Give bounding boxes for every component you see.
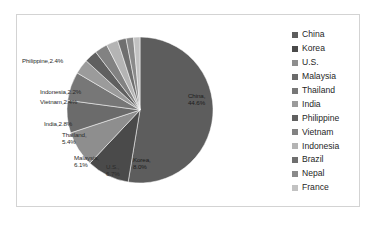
pie-data-label-value: 44.6%	[188, 99, 205, 106]
pie-data-label-name: India,2.8%	[44, 120, 72, 127]
legend-swatch-icon	[292, 115, 298, 121]
legend-item-nepal[interactable]: Nepal	[292, 167, 364, 181]
legend-item-indonesia[interactable]: Indonesia	[292, 139, 364, 153]
pie-data-label: U.S.,6.7%	[106, 163, 120, 178]
legend-swatch-icon	[292, 46, 298, 52]
pie-data-label-value: 8.0%	[133, 163, 151, 170]
pie-data-label-name: Philippine,2.4%	[22, 57, 63, 64]
legend-item-label: China	[302, 30, 324, 39]
legend-swatch-icon	[292, 143, 298, 149]
chart-legend: ChinaKoreaU.S.MalaysiaThailandIndiaPhili…	[292, 28, 364, 195]
pie-data-label: Thailand,5.4%	[62, 131, 87, 146]
legend-item-label: Indonesia	[302, 142, 339, 151]
pie-data-label: Indonesia,2.2%	[40, 88, 81, 95]
legend-item-china[interactable]: China	[292, 28, 364, 42]
legend-item-brazil[interactable]: Brazil	[292, 153, 364, 167]
pie-data-label: Vietnam,2.4%	[40, 98, 77, 105]
legend-item-vietnam[interactable]: Vietnam	[292, 125, 364, 139]
legend-item-thailand[interactable]: Thailand	[292, 84, 364, 98]
legend-item-korea[interactable]: Korea	[292, 42, 364, 56]
legend-item-label: Korea	[302, 44, 325, 53]
legend-item-us[interactable]: U.S.	[292, 56, 364, 70]
pie-data-label-value: 5.4%	[62, 138, 87, 145]
legend-item-malaysia[interactable]: Malaysia	[292, 70, 364, 84]
legend-item-label: U.S.	[302, 58, 319, 67]
legend-swatch-icon	[292, 60, 298, 66]
pie-data-label-name: Korea,	[133, 156, 151, 163]
pie-data-label: Malaysia,6.1%	[74, 154, 99, 169]
legend-item-label: Thailand	[302, 86, 335, 95]
legend-item-label: Philippine	[302, 114, 339, 123]
legend-item-label: India	[302, 100, 321, 109]
legend-swatch-icon	[292, 171, 298, 177]
legend-item-philippine[interactable]: Philippine	[292, 111, 364, 125]
legend-item-label: Vietnam	[302, 128, 333, 137]
legend-item-france[interactable]: France	[292, 181, 364, 195]
pie-data-label-name: U.S.,	[106, 163, 120, 170]
pie-data-label-name: Thailand,	[62, 131, 87, 138]
pie-data-label-name: Vietnam,2.4%	[40, 98, 77, 105]
legend-swatch-icon	[292, 185, 298, 191]
legend-swatch-icon	[292, 32, 298, 38]
legend-item-label: France	[302, 183, 329, 192]
legend-item-label: Nepal	[302, 169, 324, 178]
legend-swatch-icon	[292, 88, 298, 94]
pie-data-label: Korea,8.0%	[133, 156, 151, 171]
legend-item-label: Brazil	[302, 155, 324, 164]
legend-item-label: Malaysia	[302, 72, 336, 81]
legend-item-india[interactable]: India	[292, 97, 364, 111]
pie-data-label: India,2.8%	[44, 120, 72, 127]
legend-swatch-icon	[292, 101, 298, 107]
legend-swatch-icon	[292, 74, 298, 80]
pie-data-label-name: Malaysia,	[74, 154, 99, 161]
pie-data-label: Philippine,2.4%	[22, 57, 63, 64]
pie-data-label-value: 6.1%	[74, 161, 99, 168]
pie-data-label: China,44.6%	[188, 92, 205, 107]
legend-swatch-icon	[292, 129, 298, 135]
pie-data-label-name: Indonesia,2.2%	[40, 88, 81, 95]
legend-swatch-icon	[292, 157, 298, 163]
pie-data-label-name: China,	[188, 92, 205, 99]
pie-data-label-value: 6.7%	[106, 170, 120, 177]
